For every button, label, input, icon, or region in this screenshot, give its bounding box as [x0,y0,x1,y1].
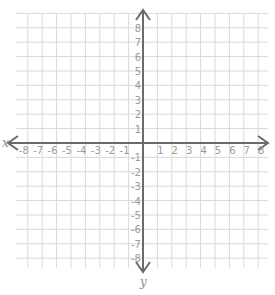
x-tick-label: -1 [120,145,130,156]
x-tick-label: 5 [215,145,221,156]
y-tick-label: -1 [131,152,141,163]
x-tick-label: 2 [172,145,178,156]
x-axis-label: x [2,136,9,150]
y-tick-label: 1 [135,124,141,135]
y-tick-label: -8 [131,253,141,264]
y-tick-label: -4 [131,196,141,207]
coordinate-plane: -8-7-6-5-4-3-2-11234567887654321-1-2-3-4… [0,0,275,295]
y-tick-label: 8 [135,23,141,34]
y-tick-label: -5 [131,210,141,221]
y-axis-label: y [139,275,147,289]
x-tick-label: -4 [76,145,86,156]
y-tick-label: -2 [131,167,141,178]
y-tick-label: 3 [135,95,141,106]
y-tick-label: 5 [135,66,141,77]
x-tick-label: 3 [186,145,192,156]
x-tick-label: -2 [105,145,115,156]
y-tick-label: 6 [135,52,141,63]
x-tick-label: -7 [33,145,43,156]
y-tick-label: 4 [135,80,141,91]
y-tick-label: -3 [131,181,141,192]
y-tick-label: -6 [131,224,141,235]
x-tick-label: -6 [48,145,58,156]
y-tick-label: 7 [135,37,141,48]
y-tick-label: 2 [135,109,141,120]
x-tick-label: -5 [62,145,72,156]
x-tick-label: 1 [157,145,163,156]
x-tick-label: -8 [19,145,29,156]
x-tick-label: 4 [200,145,206,156]
x-tick-label: 7 [244,145,250,156]
x-tick-label: 6 [229,145,235,156]
x-tick-label: 8 [258,145,264,156]
x-tick-label: -3 [91,145,101,156]
y-tick-label: -7 [131,239,141,250]
